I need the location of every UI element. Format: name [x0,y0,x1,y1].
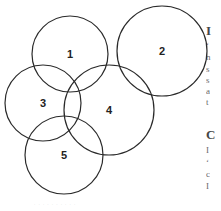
cropped-page-text: I‘nssatCI‘cI [206,0,221,211]
cropped-text-fragment: c [206,169,210,179]
circle-label: 5 [61,149,67,161]
cropped-text-fragment: ‘ [206,157,209,167]
circle-label: 4 [106,104,113,116]
circle-5: 5 [25,116,103,194]
cropped-text-fragment: C [206,130,215,140]
circle-2: 2 [117,6,207,96]
cropped-text-fragment: s [206,64,210,74]
cropped-text-fragment: I [206,181,209,191]
cropped-text-fragment: n [206,52,211,62]
cropped-text-fragment: s [206,75,210,85]
circle-label: 1 [67,48,73,60]
circle-4: 4 [64,65,154,155]
cropped-text-fragment: I [206,145,209,155]
circle-label: 2 [159,45,165,57]
cropped-text-fragment: t [206,97,209,107]
cropped-text-fragment: a [206,86,210,96]
circle-1: 1 [32,16,108,92]
cropped-text-fragment: I [206,26,211,36]
cropped-text-fragment: ‘ [206,40,209,50]
circle-3: 3 [5,65,81,141]
figure-caption: · · · · · · · · · · [34,202,104,206]
overlapping-circles-figure: 12345 [0,0,221,211]
circle-label: 3 [40,97,46,109]
